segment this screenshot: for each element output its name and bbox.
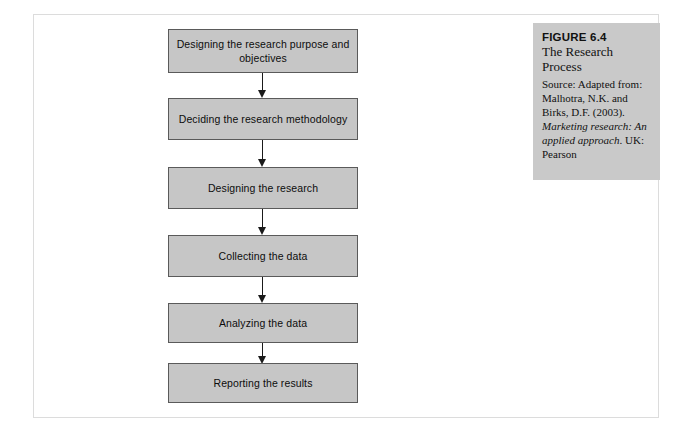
flow-step-1-label: Designing the research purpose and objec…	[175, 37, 351, 65]
arrow-head-2-icon	[258, 159, 266, 167]
figure-source-citation: Source: Adapted from: Malhotra, N.K. and…	[542, 77, 651, 161]
flow-step-5: Analyzing the data	[168, 303, 358, 343]
arrow-head-3-icon	[258, 227, 266, 235]
flow-step-6: Reporting the results	[168, 363, 358, 403]
flow-step-3: Designing the research	[168, 167, 358, 209]
flow-step-1: Designing the research purpose and objec…	[168, 29, 358, 73]
figure-caption-panel: FIGURE 6.4 The Research Process Source: …	[533, 23, 660, 180]
connector-line-4	[262, 277, 263, 295]
flow-step-2: Deciding the research methodology	[168, 98, 358, 140]
figure-number-label: FIGURE 6.4	[542, 31, 651, 43]
flow-step-2-label: Deciding the research methodology	[175, 112, 351, 126]
flow-step-5-label: Analyzing the data	[175, 316, 351, 330]
source-prefix-text: Source: Adapted from: Malhotra, N.K. and…	[542, 78, 642, 118]
figure-title: The Research Process	[542, 44, 651, 75]
arrow-head-1-icon	[258, 90, 266, 98]
connector-line-2	[262, 140, 263, 159]
connector-line-1	[262, 73, 263, 90]
connector-line-5	[262, 343, 263, 356]
arrow-head-4-icon	[258, 295, 266, 303]
flow-step-4: Collecting the data	[168, 235, 358, 277]
flow-step-6-label: Reporting the results	[175, 376, 351, 390]
flow-step-3-label: Designing the research	[175, 181, 351, 195]
flow-step-4-label: Collecting the data	[175, 249, 351, 263]
connector-line-3	[262, 209, 263, 227]
